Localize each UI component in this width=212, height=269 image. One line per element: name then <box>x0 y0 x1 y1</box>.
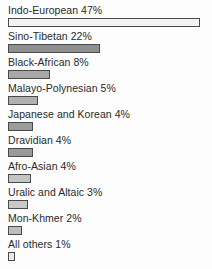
bar-label: Mon-Khmer 2% <box>8 212 212 224</box>
bar-track <box>8 252 212 261</box>
bar <box>8 226 22 235</box>
bar-track <box>8 200 212 209</box>
bar-label: Indo-European 47% <box>8 4 212 16</box>
chart-row: Dravidian 4% <box>8 134 212 160</box>
chart-row: Mon-Khmer 2% <box>8 212 212 238</box>
bar <box>8 96 38 105</box>
bar-label: Uralic and Altaic 3% <box>8 186 212 198</box>
bar <box>8 174 31 183</box>
bar-track <box>8 122 212 131</box>
bar-label: Dravidian 4% <box>8 134 212 146</box>
chart-row: Malayo-Polynesian 5% <box>8 82 212 108</box>
bar-track <box>8 70 212 79</box>
chart-row: All others 1% <box>8 238 212 264</box>
bar-label: Black-African 8% <box>8 56 212 68</box>
bar <box>8 44 100 53</box>
bar <box>8 122 33 131</box>
bar-track <box>8 226 212 235</box>
bar-label: Malayo-Polynesian 5% <box>8 82 212 94</box>
bar <box>8 252 15 261</box>
chart-row: Black-African 8% <box>8 56 212 82</box>
bar-track <box>8 148 212 157</box>
bar-label: Afro-Asian 4% <box>8 160 212 172</box>
bar <box>8 148 33 157</box>
bar-track <box>8 174 212 183</box>
bar-track <box>8 96 212 105</box>
bar-label: All others 1% <box>8 238 212 250</box>
bar-track <box>8 44 212 53</box>
language-family-bar-chart: Indo-European 47% Sino-Tibetan 22% Black… <box>0 0 212 269</box>
bar-label: Japanese and Korean 4% <box>8 108 212 120</box>
bar <box>8 70 50 79</box>
bar-label: Sino-Tibetan 22% <box>8 30 212 42</box>
chart-row: Uralic and Altaic 3% <box>8 186 212 212</box>
chart-row: Afro-Asian 4% <box>8 160 212 186</box>
bar <box>8 200 28 209</box>
chart-row: Indo-European 47% <box>8 4 212 30</box>
chart-row: Sino-Tibetan 22% <box>8 30 212 56</box>
chart-row: Japanese and Korean 4% <box>8 108 212 134</box>
bar-track <box>8 18 212 27</box>
bar <box>8 18 200 27</box>
